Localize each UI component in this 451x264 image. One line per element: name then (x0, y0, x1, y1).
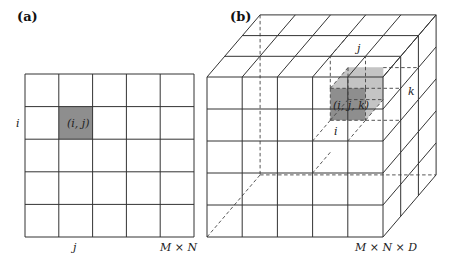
panel-b-3d-grid: (b) (i, j, k) j k i M × N × D (207, 9, 436, 254)
hidden-edge-bottom-left-depth (207, 175, 260, 237)
voxel-ijk-label: (i, j, k) (333, 99, 369, 112)
panel-a-2d-grid: (a) (i, j) i j M × N (16, 9, 197, 254)
right-face-depth-line (383, 175, 436, 237)
figure: (a) (i, j) i j M × N (b) (i, j, k) j k i… (0, 0, 451, 264)
voxel-guide-dashed (313, 120, 331, 141)
voxel-guide-dashed (348, 120, 366, 141)
cell-ij-label: (i, j) (67, 117, 90, 130)
size-mxnxd-label: M × N × D (354, 241, 417, 254)
right-face-depth-line (383, 143, 436, 205)
top-face-depth-line (242, 15, 295, 77)
panel-a-label: (a) (17, 9, 38, 24)
row-index-i-label: i (16, 117, 20, 130)
j-index-label: j (354, 42, 361, 55)
hidden-edges-dashed (207, 15, 436, 237)
highlighted-voxel-ijk (330, 68, 383, 121)
panel-b-label: (b) (230, 9, 251, 24)
i-index-label: i (334, 125, 338, 138)
voxel-guide-dashed (313, 152, 331, 173)
k-index-label: k (408, 85, 415, 98)
size-mxn-label: M × N (159, 241, 197, 254)
top-face-depth-line (207, 15, 260, 77)
grid-2d (25, 74, 194, 237)
top-face-depth-line (277, 15, 330, 77)
grid-3d (207, 15, 436, 237)
col-index-j-label: j (70, 241, 77, 254)
